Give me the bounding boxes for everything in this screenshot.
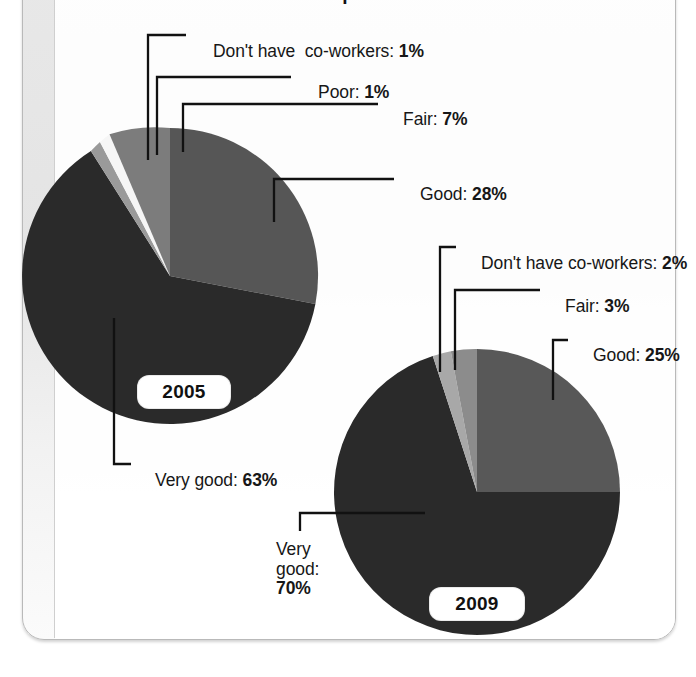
label-2009-good: Good: 25% [574,326,680,385]
label-2005-fair: Fair: 7% [384,90,467,149]
label-2005-very-good: Very good: 63% [136,451,277,510]
label-2009-very-good-line1: Very [276,540,350,560]
label-2009-very-good: Very good: 70% [276,540,350,599]
year-badge-2009: 2009 [430,588,524,620]
label-2005-good-value: 28% [472,184,507,204]
label-2009-fair-text: Fair: [565,296,604,316]
label-2009-dont-have-coworkers-text: Don't have co-workers: [481,253,662,273]
label-2009-very-good-line2: good: [276,560,350,580]
slice-2005-good [170,128,318,304]
cropped-title-fragment: p [0,0,696,9]
label-2009-good-text: Good: [593,345,645,365]
label-2005-very-good-value: 63% [243,470,278,490]
year-badge-2005: 2005 [138,376,230,408]
figure-root: p [0,0,696,677]
year-badge-2009-text: 2009 [455,593,498,615]
label-2009-fair-value: 3% [604,296,629,316]
label-2005-poor: Poor: 1% [299,63,389,122]
label-2005-poor-text: Poor: [318,82,364,102]
label-2005-dont-have-coworkers-value: 1% [399,41,424,61]
label-2005-fair-value: 7% [442,109,467,129]
label-2005-dont-have-coworkers-text: Don't have co-workers: [213,41,399,61]
label-2009-dont-have-coworkers-value: 2% [662,253,687,273]
label-2009-very-good-value: 70% [276,579,350,599]
year-badge-2005-text: 2005 [162,381,205,403]
label-2005-good-text: Good: [420,184,472,204]
label-2005-fair-text: Fair: [403,109,442,129]
label-2009-good-value: 25% [645,345,680,365]
label-2005-very-good-text: Very good: [155,470,242,490]
label-2005-good: Good: 28% [401,165,507,224]
